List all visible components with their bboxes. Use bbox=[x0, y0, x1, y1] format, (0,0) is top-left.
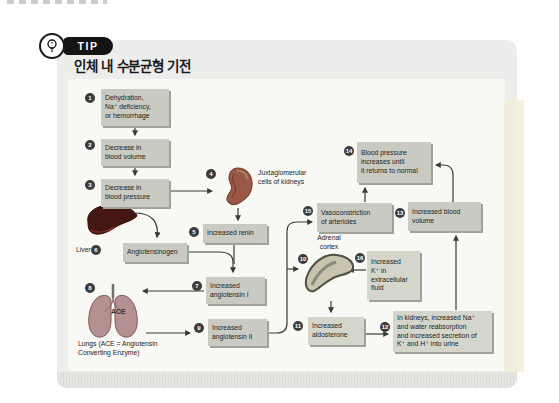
lightbulb-icon bbox=[39, 33, 65, 59]
label-adrenal-cortex: Adrenal cortex bbox=[310, 234, 348, 252]
step-circle-13: 13 bbox=[395, 208, 405, 218]
node-angiotensin-2: Increased angiotensin II bbox=[208, 319, 267, 346]
liver-icon bbox=[85, 202, 139, 244]
step-circle-1: 1 bbox=[85, 93, 95, 103]
step-circle-5: 5 bbox=[189, 227, 199, 237]
label-liver: Liver bbox=[76, 246, 91, 255]
step-circle-4: 4 bbox=[206, 169, 216, 179]
node-blood-pressure-normal: Blood pressure increases until it return… bbox=[357, 142, 431, 183]
node-vasoconstriction: Vasoconstriction of arterioles bbox=[317, 203, 392, 232]
step-circle-9: 9 bbox=[194, 323, 204, 333]
step-circle-12: 12 bbox=[380, 322, 390, 332]
node-increased-renin: Increased renin bbox=[203, 224, 267, 243]
node-decrease-blood-volume: Decrease in blood volume bbox=[101, 139, 169, 166]
node-increased-potassium: Increased K⁺ in extracellular fluid bbox=[367, 251, 420, 300]
step-circle-3: 3 bbox=[85, 180, 95, 190]
node-increased-blood-volume: Increased blood volume bbox=[408, 202, 481, 231]
node-dehydration: Dehydration, Na⁺ deficiency, or hemorrha… bbox=[101, 89, 169, 126]
step-circle-15: 15 bbox=[303, 206, 313, 216]
step-circle-14: 14 bbox=[344, 146, 354, 156]
step-circle-16: 16 bbox=[355, 253, 365, 263]
step-circle-11: 11 bbox=[293, 321, 303, 331]
kidney-icon bbox=[221, 166, 255, 208]
step-circle-2: 2 bbox=[85, 140, 95, 150]
step-circle-8: 8 bbox=[85, 283, 95, 293]
adrenal-gland-icon bbox=[302, 252, 358, 298]
label-juxtaglomerular: Juxtaglomerular cells of kidneys bbox=[258, 169, 306, 187]
node-kidney-reabsorption: In kidneys, increased Na⁺ and water reab… bbox=[393, 311, 492, 352]
node-angiotensin-1: Increased angiotensin I bbox=[206, 277, 265, 304]
tip-badge: TIP bbox=[63, 37, 113, 55]
label-ace: ACE bbox=[111, 308, 126, 315]
scanned-textbook-page: TIP 인체 내 수분균형 기전 bbox=[0, 0, 559, 403]
page-title: 인체 내 수분균형 기전 bbox=[74, 55, 191, 75]
node-decrease-blood-pressure: Decrease in blood pressure bbox=[101, 179, 169, 207]
label-lungs-caption: Lungs (ACE = Angiotensin Converting Enzy… bbox=[78, 340, 158, 358]
step-circle-6: 6 bbox=[91, 245, 101, 255]
node-increased-aldosterone: Increased aldosterone bbox=[308, 317, 364, 345]
node-angiotensinogen: Angiotensinogen bbox=[123, 243, 187, 262]
step-circle-7: 7 bbox=[192, 281, 202, 291]
step-circle-10: 10 bbox=[298, 254, 308, 264]
